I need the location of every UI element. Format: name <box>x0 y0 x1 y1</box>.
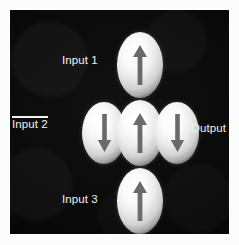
arrow-up-icon <box>132 112 148 154</box>
label-output: Output <box>191 122 226 135</box>
arrow-down-icon <box>97 113 112 153</box>
arrow-up-icon <box>132 44 148 86</box>
label-input-2: Input 2 <box>12 116 48 131</box>
label-input-1: Input 1 <box>62 54 98 67</box>
dot-top-input1 <box>117 32 163 98</box>
dot-bottom-input3 <box>117 168 163 234</box>
arrow-up-icon <box>132 180 148 222</box>
label-input-2-text: Input 2 <box>12 116 48 131</box>
label-input-3: Input 3 <box>62 193 98 206</box>
micrograph-panel: Input 1 Input 2 Input 3 Output <box>10 10 229 234</box>
arrow-down-icon <box>170 113 185 153</box>
figure-root: Input 1 Input 2 Input 3 Output <box>0 0 239 245</box>
